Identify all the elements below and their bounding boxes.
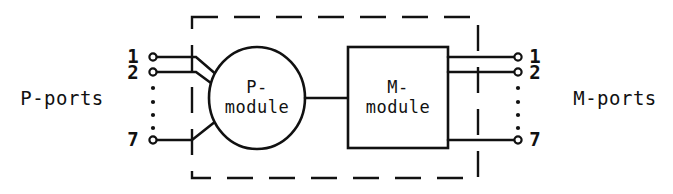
m-port-terminal-1[interactable] <box>514 53 521 60</box>
m-module-label-line1: M- <box>387 77 408 97</box>
m-port-terminal-7[interactable] <box>514 136 521 143</box>
m-port-number-2: 2 <box>529 61 540 83</box>
m-ports-ellipsis <box>516 86 520 130</box>
p-port-wire-7 <box>156 121 216 140</box>
p-ports-ellipsis <box>151 86 155 130</box>
p-port-terminal-1[interactable] <box>149 53 156 60</box>
p-module-label-line2: module <box>225 97 289 117</box>
m-ports-label: M-ports <box>573 87 657 109</box>
m-port-wires <box>448 57 515 140</box>
m-port-number-7: 7 <box>529 128 540 150</box>
p-module-label-line1: P- <box>246 77 267 97</box>
p-port-wire-2 <box>156 72 215 86</box>
p-port-number-2: 2 <box>127 61 138 83</box>
p-ports-label: P-ports <box>20 87 104 109</box>
diagram-root: 1 2 7 P-ports P- module M- module <box>0 0 673 194</box>
block-diagram: 1 2 7 P-ports P- module M- module <box>0 0 673 194</box>
p-port-terminal-7[interactable] <box>149 136 156 143</box>
p-port-number-7: 7 <box>127 128 138 150</box>
p-port-terminal-2[interactable] <box>149 68 156 75</box>
m-module-label-line2: module <box>366 97 430 117</box>
m-port-terminal-2[interactable] <box>514 68 521 75</box>
